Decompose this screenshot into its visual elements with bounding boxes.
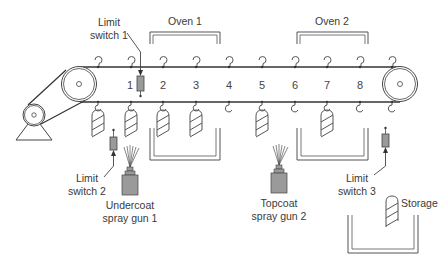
station-number: 4: [226, 79, 232, 91]
limit-switch-2: [104, 129, 117, 177]
oven-2-bracket: [297, 32, 368, 44]
topcoat-spray-gun: [271, 144, 288, 193]
station-number: 2: [160, 79, 166, 91]
limit-switch-2-label: Limit switch 2: [64, 172, 110, 198]
oven-1-tank: [150, 128, 220, 160]
undercoat-spray-gun-label: Undercoat spray gun 1: [100, 199, 160, 225]
topcoat-spray-gun-label: Topcoat spray gun 2: [249, 197, 309, 223]
station-number: 1: [127, 79, 133, 91]
oven-1-label: Oven 1: [160, 15, 210, 28]
limit-switch-3: [374, 127, 389, 175]
right-pulley: [383, 67, 418, 102]
station-number: 3: [193, 79, 199, 91]
left-pulley: [62, 67, 97, 102]
station-number: 5: [259, 79, 265, 91]
station-number: 7: [324, 79, 330, 91]
limit-switch-1-label: Limit switch 1: [84, 16, 134, 42]
undercoat-spray-gun: [122, 145, 139, 195]
limit-switch-3-label: Limit switch 3: [334, 172, 380, 198]
motor-pulley: [23, 104, 45, 126]
oven-2-label: Oven 2: [307, 15, 357, 28]
conveyor-diagram: [0, 0, 446, 270]
bottom-hooks-and-parts: [92, 101, 395, 137]
oven-2-tank: [297, 128, 368, 160]
oven-1-bracket: [150, 32, 220, 44]
station-number: 8: [357, 79, 363, 91]
storage-label: Storage: [401, 197, 438, 210]
station-number: 6: [292, 79, 298, 91]
